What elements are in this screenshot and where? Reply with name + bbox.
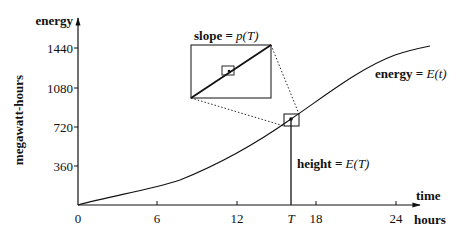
y-ticks: 1440 1080 720 360 (47, 41, 78, 174)
x-tick-18: 18 (310, 211, 323, 226)
x-tick-12: 12 (231, 211, 244, 226)
y-tick-1440: 1440 (47, 41, 73, 56)
x-tick-24: 24 (390, 211, 404, 226)
x-axis-label: time (416, 188, 441, 203)
y-tick-1080: 1080 (47, 81, 73, 96)
inset-point (228, 70, 231, 73)
connector-top (271, 45, 299, 114)
curve-label: energy = E(t) (375, 66, 447, 81)
y-tick-360: 360 (54, 159, 74, 174)
x-tick-0: 0 (75, 211, 82, 226)
x-tick-6: 6 (154, 211, 161, 226)
y-axis-label: energy (35, 13, 73, 28)
y-tick-720: 720 (54, 120, 74, 135)
point-T (289, 117, 293, 121)
energy-diagram: energy megawatt-hours 1440 1080 720 360 … (0, 0, 458, 236)
connector-bottom (191, 98, 284, 126)
slope-label: slope = p(T) (194, 28, 258, 43)
y-axis-unit-label: megawatt-hours (11, 75, 26, 165)
x-tick-T: T (287, 211, 295, 226)
height-label: height = E(T) (297, 156, 369, 171)
x-axis-unit-label: hours (414, 212, 446, 227)
